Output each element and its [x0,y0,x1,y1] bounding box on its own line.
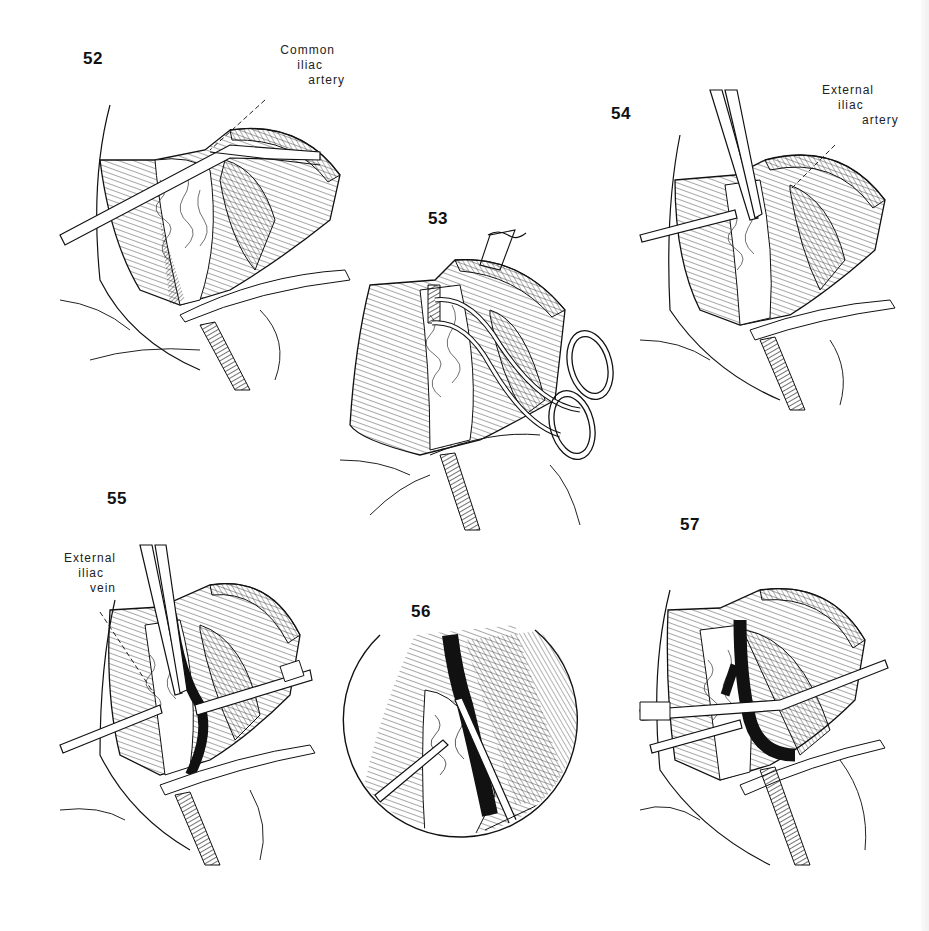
figure-55-number: 55 [107,489,127,509]
figure-52-illustration [60,60,360,390]
figure-57-number: 57 [680,515,700,535]
figure-56-illustration [335,595,585,840]
figure-57-illustration [640,570,905,870]
label-line: Common [275,43,345,58]
figure-53-illustration [340,225,620,530]
figure-54-illustration [640,90,929,410]
figure-55-illustration [60,545,340,865]
figure-54-number: 54 [611,104,631,124]
